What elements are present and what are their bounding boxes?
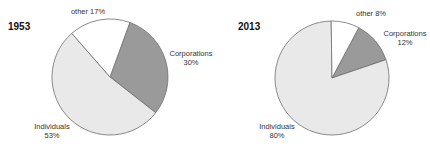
label-individuals-1953-name: Individuals: [34, 122, 69, 131]
label-individuals-1953-pct: 53%: [34, 131, 69, 140]
label-other-2013: other 8%: [356, 9, 386, 18]
label-other-1953-text: other 17%: [71, 7, 105, 16]
label-corporations-2013-name: Corporations: [384, 29, 427, 38]
label-corporations-2013-pct: 12%: [384, 38, 427, 47]
pie-1953-svg: [0, 0, 215, 147]
label-individuals-2013: Individuals 80%: [259, 122, 294, 140]
label-corporations-1953-name: Corporations: [170, 49, 213, 58]
label-other-2013-text: other 8%: [356, 9, 386, 18]
pie-chart-2013: 2013 other 8% Corporations 12% Individua…: [215, 0, 430, 147]
pie-chart-1953: 1953 other 17% Corporations 30% Individu…: [0, 0, 215, 147]
label-other-1953: other 17%: [71, 7, 105, 16]
label-corporations-1953-pct: 30%: [170, 58, 213, 67]
label-individuals-2013-pct: 80%: [259, 131, 294, 140]
year-title-1953: 1953: [8, 21, 30, 32]
label-corporations-1953: Corporations 30%: [170, 49, 213, 67]
year-title-2013: 2013: [238, 21, 260, 32]
label-corporations-2013: Corporations 12%: [384, 29, 427, 47]
label-individuals-2013-name: Individuals: [259, 122, 294, 131]
label-individuals-1953: Individuals 53%: [34, 122, 69, 140]
